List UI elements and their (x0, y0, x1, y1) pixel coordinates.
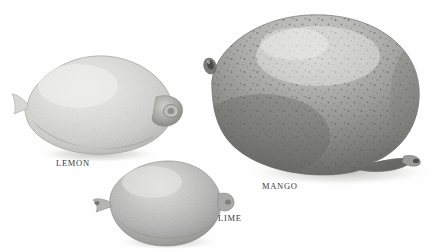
caption-lemon: LEMON (56, 159, 90, 168)
fruit-plate: LEMON MANGO LIME (0, 0, 446, 252)
lemon-stem-nub (152, 96, 183, 127)
caption-mango: MANGO (262, 182, 298, 191)
lime-specimen (90, 150, 238, 252)
lime-highlight (122, 166, 182, 198)
lime-blossom-nub (218, 193, 234, 211)
lemon-highlight (38, 64, 118, 108)
lime-stem-nub (93, 199, 111, 212)
caption-lime: LIME (218, 214, 242, 223)
